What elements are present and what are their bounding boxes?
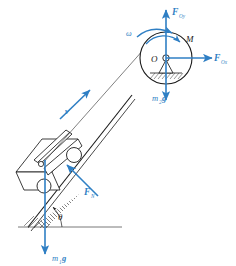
label-m2g: m 2 g bbox=[152, 93, 167, 105]
label-point-O: O bbox=[151, 54, 158, 64]
label-m1g-mass: m bbox=[52, 253, 58, 263]
label-moment-M: M bbox=[185, 34, 194, 44]
roller-lower bbox=[37, 179, 51, 193]
cord-attachment-pin bbox=[38, 161, 43, 166]
label-m2g-mass: m bbox=[152, 93, 158, 103]
label-m1g: m 1 g bbox=[52, 253, 67, 265]
label-velocity: v bbox=[65, 106, 69, 116]
cord-line bbox=[43, 40, 152, 163]
label-F-Oy-symbol: F bbox=[171, 7, 179, 17]
roller-upper bbox=[67, 148, 82, 163]
label-m2g-gravity: g bbox=[161, 93, 167, 103]
diagram-canvas: F Oy F Ox M ω O m 2 g F N m 1 g bbox=[0, 0, 236, 266]
label-m1g-gravity: g bbox=[61, 253, 67, 263]
label-F-Oy: F Oy bbox=[171, 7, 186, 19]
vector-F-N bbox=[67, 165, 98, 196]
label-F-Ox-subscript: Ox bbox=[221, 59, 228, 65]
label-omega: ω bbox=[126, 29, 132, 38]
label-F-N: F N bbox=[83, 187, 95, 199]
label-theta: θ bbox=[58, 212, 63, 222]
wedge-corner-hatching bbox=[24, 216, 50, 234]
physics-diagram: F Oy F Ox M ω O m 2 g F N m 1 g bbox=[0, 0, 236, 266]
label-F-Oy-subscript: Oy bbox=[179, 13, 186, 19]
label-F-Ox-symbol: F bbox=[213, 53, 221, 63]
label-F-Ox: F Ox bbox=[213, 53, 228, 65]
label-F-N-symbol: F bbox=[83, 187, 91, 197]
label-F-N-subscript: N bbox=[90, 193, 95, 199]
